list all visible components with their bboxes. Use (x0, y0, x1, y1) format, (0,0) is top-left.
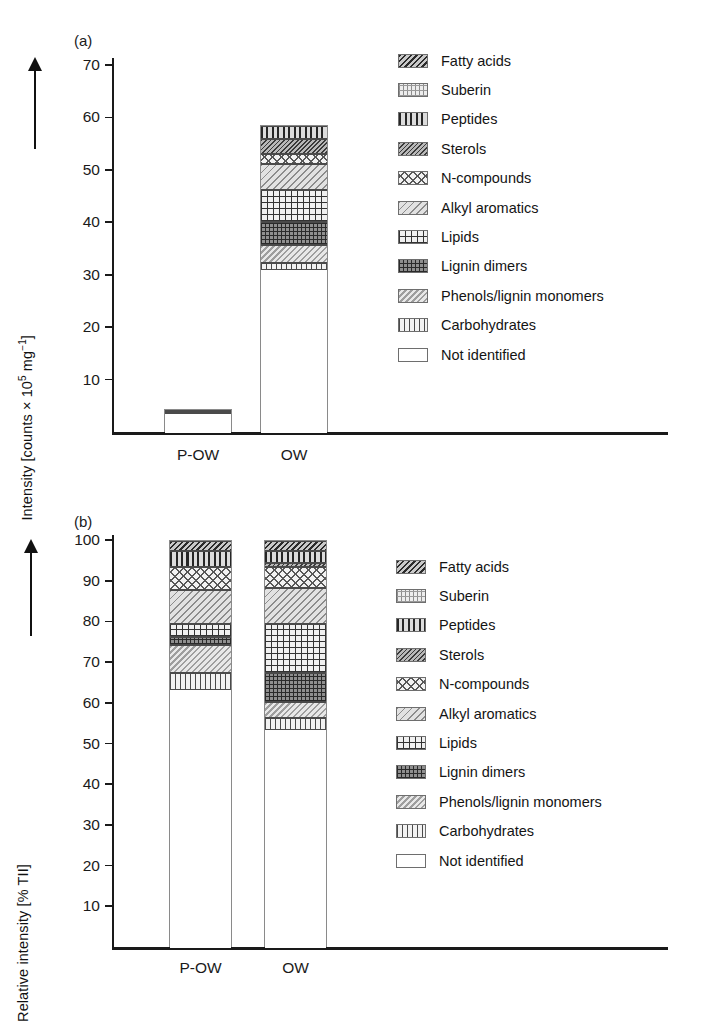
legend-item[interactable]: Carbohydrates (398, 311, 604, 340)
y-tick (105, 783, 112, 785)
y-tick-label: 30 (50, 816, 100, 834)
swatch-not-identified-icon (396, 854, 426, 868)
y-tick-label: 100 (50, 531, 100, 549)
bar-p-ow[interactable] (164, 409, 232, 432)
legend-item[interactable]: Fatty acids (396, 552, 602, 581)
y-tick (105, 743, 112, 745)
legend-label: Lipids (441, 229, 479, 245)
y-tick-label: 50 (50, 735, 100, 753)
bar-segment-n-compounds[interactable] (261, 154, 327, 164)
y-tick-label: 10 (50, 897, 100, 915)
bar-segment-fatty-acids[interactable] (265, 541, 326, 551)
legend-item[interactable]: Sterols (396, 640, 602, 669)
bar-segment-peptides[interactable] (170, 551, 231, 567)
y-tick (105, 379, 112, 381)
bar-segment-carbohydrates[interactable] (265, 718, 326, 730)
panel-a-tag: (a) (74, 32, 92, 49)
legend-item[interactable]: Not identified (396, 846, 602, 875)
bar-segment-phenols-lignin-monomers[interactable] (261, 245, 327, 262)
swatch-alkyl-aromatics-icon (396, 707, 426, 721)
swatch-lignin-dimers-icon (398, 259, 428, 273)
swatch-lignin-dimers-icon (396, 765, 426, 779)
bar-segment-not-identified[interactable] (261, 270, 327, 433)
bar-segment-lignin-dimers[interactable] (265, 673, 326, 701)
legend-item[interactable]: Not identified (398, 340, 604, 369)
legend-label: Peptides (439, 617, 495, 633)
legend-item[interactable]: Fatty acids (398, 46, 604, 75)
bar-segment-lignin-dimers[interactable] (170, 637, 231, 645)
legend-label: Suberin (441, 82, 491, 98)
legend-item[interactable]: Phenols/lignin monomers (398, 281, 604, 310)
bar-segment-not-identified[interactable] (165, 414, 231, 433)
swatch-peptides-icon (398, 112, 428, 126)
legend-item[interactable]: Lipids (396, 728, 602, 757)
panel-a-ylabel: Intensity [counts × 105 mg−1] (17, 335, 35, 521)
y-tick (105, 221, 112, 223)
swatch-not-identified-icon (398, 348, 428, 362)
bar-segment-lignin-dimers[interactable] (261, 222, 327, 246)
x-axis-label-ow: OW (234, 446, 354, 464)
bar-segment-carbohydrates[interactable] (170, 673, 231, 689)
legend-item[interactable]: Carbohydrates (396, 817, 602, 846)
bar-segment-phenols-lignin-monomers[interactable] (265, 702, 326, 718)
legend-label: Not identified (439, 853, 524, 869)
bar-segment-sterols[interactable] (261, 139, 327, 153)
bar-segment-lipids[interactable] (265, 624, 326, 673)
legend-label: Alkyl aromatics (441, 200, 539, 216)
bar-segment-not-identified[interactable] (265, 730, 326, 948)
bar-segment-sterols[interactable] (165, 410, 231, 412)
legend-item[interactable]: N-compounds (396, 670, 602, 699)
y-tick (105, 326, 112, 328)
swatch-alkyl-aromatics-icon (398, 201, 428, 215)
swatch-n-compounds-icon (398, 171, 428, 185)
y-tick-label: 30 (50, 266, 100, 284)
bar-segment-lipids[interactable] (261, 190, 327, 221)
bar-segment-peptides[interactable] (261, 126, 327, 139)
bar-segment-n-compounds[interactable] (265, 567, 326, 587)
legend-item[interactable]: Lignin dimers (398, 252, 604, 281)
legend-label: Lignin dimers (439, 764, 525, 780)
bar-segment-alkyl-aromatics[interactable] (265, 588, 326, 625)
swatch-suberin-icon (396, 589, 426, 603)
legend-label: Phenols/lignin monomers (441, 288, 604, 304)
swatch-fatty-acids-icon (398, 54, 428, 68)
legend-panel-b: Fatty acidsSuberinPeptidesSterolsN-compo… (396, 552, 602, 875)
bar-segment-n-compounds[interactable] (170, 567, 231, 589)
legend-item[interactable]: Peptides (398, 105, 604, 134)
legend-item[interactable]: Suberin (398, 75, 604, 104)
bar-ow[interactable] (264, 540, 327, 947)
bar-segment-fatty-acids[interactable] (170, 541, 231, 551)
bar-segment-sterols[interactable] (265, 563, 326, 567)
y-tick (105, 865, 112, 867)
bar-p-ow[interactable] (169, 540, 232, 947)
legend-item[interactable]: Lipids (398, 222, 604, 251)
bar-segment-lipids[interactable] (170, 624, 231, 636)
y-tick-label: 60 (50, 694, 100, 712)
bar-ow[interactable] (260, 125, 328, 432)
y-axis-arrow-icon (34, 69, 36, 149)
legend-item[interactable]: N-compounds (398, 164, 604, 193)
legend-item[interactable]: Alkyl aromatics (396, 699, 602, 728)
panel-b-tag: (b) (74, 513, 92, 530)
bar-segment-alkyl-aromatics[interactable] (170, 590, 231, 625)
bar-segment-alkyl-aromatics[interactable] (261, 164, 327, 190)
swatch-sterols-icon (398, 142, 428, 156)
swatch-lipids-icon (398, 230, 428, 244)
swatch-phenols-lignin-monomers-icon (396, 795, 426, 809)
legend-item[interactable]: Lignin dimers (396, 758, 602, 787)
legend-label: Fatty acids (439, 559, 509, 575)
legend-item[interactable]: Peptides (396, 611, 602, 640)
swatch-fatty-acids-icon (396, 560, 426, 574)
legend-item[interactable]: Alkyl aromatics (398, 193, 604, 222)
y-tick (105, 661, 112, 663)
legend-label: Not identified (441, 347, 526, 363)
legend-item[interactable]: Phenols/lignin monomers (396, 787, 602, 816)
bar-segment-peptides[interactable] (265, 551, 326, 563)
legend-item[interactable]: Sterols (398, 134, 604, 163)
y-tick-label: 90 (50, 572, 100, 590)
y-tick (105, 824, 112, 826)
bar-segment-not-identified[interactable] (170, 690, 231, 948)
legend-item[interactable]: Suberin (396, 581, 602, 610)
bar-segment-phenols-lignin-monomers[interactable] (170, 645, 231, 673)
bar-segment-carbohydrates[interactable] (261, 263, 327, 271)
